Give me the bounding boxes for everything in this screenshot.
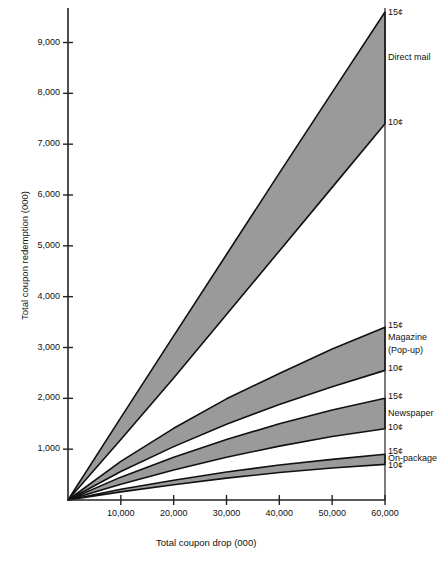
label-on-package-10c: 10¢: [388, 460, 403, 470]
label-magazine-name: Magazine: [388, 332, 427, 342]
y-tick-label: 6,000: [8, 189, 60, 199]
chart-figure: Total coupon redemption (000) 1,0002,000…: [0, 0, 441, 562]
label-magazine-10c: 10¢: [388, 363, 403, 373]
label-magazine-15c: 15¢: [388, 320, 403, 330]
y-tick-label: 3,000: [8, 342, 60, 352]
y-tick-label: 9,000: [8, 37, 60, 47]
label-newspaper-name: Newspaper: [388, 408, 434, 418]
chart-plot-area: [0, 0, 441, 562]
y-axis-title: Total coupon redemption (000): [19, 176, 30, 336]
label-newspaper-10c: 10¢: [388, 422, 403, 432]
y-tick-label: 7,000: [8, 138, 60, 148]
y-tick-label: 1,000: [8, 443, 60, 453]
y-tick-label: 2,000: [8, 392, 60, 402]
label-direct-mail-15c: 15¢: [388, 7, 403, 17]
y-tick-label: 4,000: [8, 291, 60, 301]
label-direct-mail-10c: 10¢: [388, 117, 403, 127]
y-tick-label: 8,000: [8, 87, 60, 97]
band-on-package: [68, 454, 385, 500]
label-newspaper-15c: 15¢: [388, 391, 403, 401]
x-axis-title: Total coupon drop (000): [156, 537, 256, 548]
x-tick-label: 60,000: [350, 508, 420, 518]
y-axis-title-wrap: Total coupon redemption (000): [0, 0, 20, 562]
label-magazine-subname: (Pop-up): [388, 345, 423, 355]
y-tick-label: 5,000: [8, 240, 60, 250]
label-direct-mail-name: Direct mail: [388, 52, 431, 62]
